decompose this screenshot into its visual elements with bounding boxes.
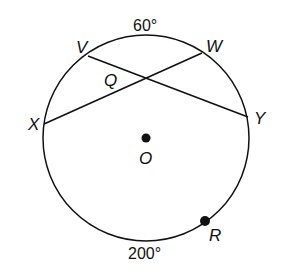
- label-w: W: [206, 37, 224, 56]
- label-r: R: [209, 226, 221, 245]
- label-y: Y: [254, 109, 267, 128]
- center-point-o: [142, 134, 151, 143]
- label-v: V: [76, 38, 89, 57]
- arc-label-bottom: 200°: [128, 245, 161, 262]
- label-o: O: [139, 149, 152, 168]
- arc-label-top: 60°: [133, 17, 157, 34]
- label-q: Q: [104, 71, 117, 90]
- circle-diagram: 60° 200° V W Q X Y O R: [0, 0, 284, 275]
- point-r: [200, 216, 210, 226]
- label-x: X: [27, 115, 40, 134]
- chord-xw: [44, 53, 202, 124]
